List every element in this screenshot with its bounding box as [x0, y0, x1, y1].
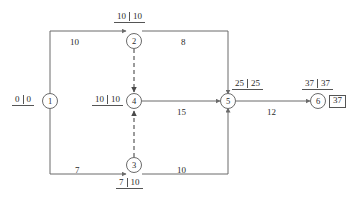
edge-weight-1-2: 10 [70, 38, 79, 47]
node-6-late-time: 37 [319, 79, 332, 88]
node-label-6: 6 [312, 97, 324, 106]
node-times-6: 37 37 [302, 79, 333, 90]
node-2-early-time: 10 [115, 12, 128, 21]
edge-weight-5-6: 12 [267, 108, 276, 117]
node-2-late-time: 10 [131, 12, 144, 21]
node-6-boxed-value: 37 [329, 95, 346, 108]
time-separator [129, 12, 130, 21]
edge-weight-4-5: 15 [177, 108, 186, 117]
node-times-3: 7 10 [116, 178, 143, 189]
node-6-boxed-value-wrapper: 37 [329, 95, 346, 108]
time-separator [127, 178, 128, 187]
time-separator [247, 79, 248, 88]
edge-1-3 [50, 108, 126, 174]
node-3-late-time: 10 [129, 178, 142, 187]
node-times-1: 0 0 [12, 95, 34, 106]
node-label-4: 4 [128, 97, 140, 106]
node-3-early-time: 7 [117, 178, 126, 187]
node-5-early-time: 25 [233, 79, 246, 88]
edge-weight-2-5: 8 [181, 38, 186, 47]
node-5-late-time: 25 [249, 79, 262, 88]
node-label-2: 2 [128, 37, 140, 46]
time-separator [23, 95, 24, 104]
node-times-5: 25 25 [232, 79, 263, 90]
node-1-late-time: 0 [25, 95, 34, 104]
node-label-3: 3 [128, 161, 140, 170]
node-6-early-time: 37 [303, 79, 316, 88]
node-times-2: 10 10 [114, 12, 145, 23]
edge-weight-1-3: 7 [75, 166, 80, 175]
node-label-5: 5 [222, 97, 234, 106]
edge-1-2 [50, 31, 126, 94]
node-4-early-time: 10 [93, 95, 106, 104]
node-1-early-time: 0 [13, 95, 22, 104]
network-diagram-canvas: 1 2 3 4 5 6 0 0 10 10 7 10 10 10 [0, 0, 348, 198]
node-times-4: 10 10 [92, 95, 123, 106]
node-4-late-time: 10 [109, 95, 122, 104]
node-label-1: 1 [44, 97, 56, 106]
time-separator [107, 95, 108, 104]
edge-weight-3-5: 10 [177, 166, 186, 175]
time-separator [317, 79, 318, 88]
